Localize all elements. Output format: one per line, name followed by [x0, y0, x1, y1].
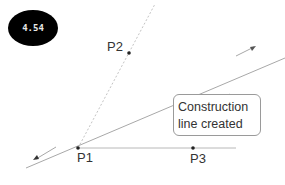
arrow-down-left-icon: [33, 147, 56, 160]
value-badge: 4.54: [8, 10, 58, 46]
point-p2[interactable]: [127, 51, 131, 55]
callout-line-2: line created: [178, 116, 260, 133]
value-badge-text: 4.54: [22, 23, 44, 33]
label-p3: P3: [190, 152, 206, 165]
label-p1: P1: [77, 151, 93, 164]
callout-line-1: Construction: [178, 99, 260, 116]
arrow-up-right-icon: [236, 46, 256, 56]
construction-line-callout: Construction line created: [173, 94, 261, 136]
dotted-reference-line: [78, 4, 155, 148]
label-p2: P2: [107, 40, 123, 53]
point-p3[interactable]: [191, 146, 195, 150]
